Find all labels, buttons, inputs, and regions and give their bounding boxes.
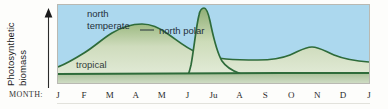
month-tick-12: J xyxy=(362,90,376,100)
plot-area: north temperate north polar tropical xyxy=(57,4,370,84)
y-axis-label-line2: biomass xyxy=(17,50,28,86)
curve-tropical-stroke xyxy=(58,73,369,74)
month-tick-7: A xyxy=(232,90,246,100)
month-tick-4: M xyxy=(155,90,169,100)
annotation-north-polar: north polar xyxy=(159,25,204,37)
month-tick-1: F xyxy=(77,90,91,100)
axis-base-rule xyxy=(57,103,370,104)
up-arrow-icon xyxy=(44,8,53,88)
y-axis-label-group: Photosynthetic biomass xyxy=(0,2,56,88)
month-tick-0: J xyxy=(51,90,65,100)
month-tick-6: Ju xyxy=(207,90,221,100)
annotation-tropical: tropical xyxy=(76,59,107,71)
annotation-north-temperate: north temperate xyxy=(87,8,130,31)
annotation-north-temperate-line2: temperate xyxy=(87,20,130,32)
month-tick-10: N xyxy=(310,90,324,100)
annotation-north-temperate-line1: north xyxy=(87,8,130,20)
month-tick-11: D xyxy=(336,90,350,100)
figure-seasonal-photosynthetic-biomass: Photosynthetic biomass xyxy=(0,0,388,109)
month-axis: MONTH: JFMAMJJuASONDJ xyxy=(0,88,388,104)
month-tick-9: O xyxy=(284,90,298,100)
month-axis-label: MONTH: xyxy=(9,90,43,99)
month-tick-2: M xyxy=(103,90,117,100)
month-tick-5: J xyxy=(181,90,195,100)
month-tick-3: A xyxy=(129,90,143,100)
y-axis-label-line1: Photosynthetic xyxy=(5,22,16,86)
month-tick-8: S xyxy=(258,90,272,100)
